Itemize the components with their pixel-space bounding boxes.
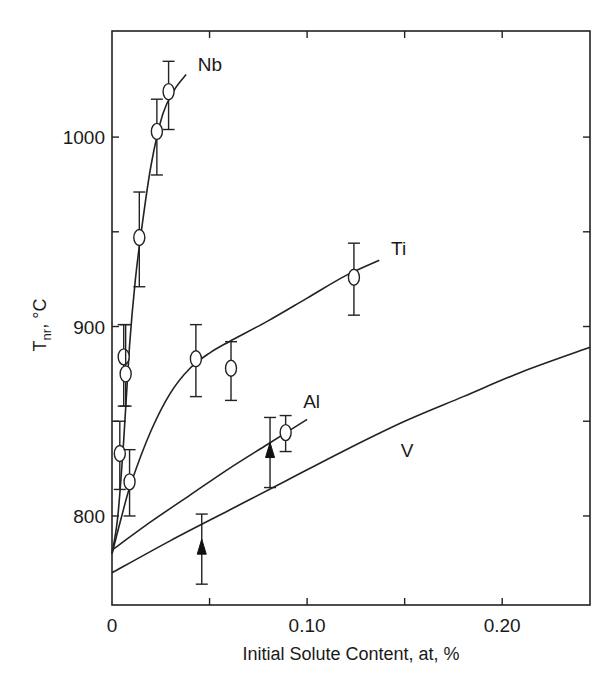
- y-tick-label: 800: [73, 506, 105, 527]
- circle-marker-icon: [151, 123, 162, 139]
- chart: 00.100.20 8009001000 NbTiAlV Initial Sol…: [0, 0, 615, 682]
- x-tick-label: 0: [107, 615, 118, 636]
- series-label-v: V: [401, 440, 414, 461]
- y-axis-title: Tnr, °C: [30, 299, 54, 352]
- y-axis-title-main: T: [30, 340, 50, 351]
- plot-border: [112, 31, 590, 605]
- curve-nb: [112, 75, 186, 554]
- data-point-nb: [133, 192, 145, 287]
- circle-marker-icon: [280, 425, 291, 441]
- series-curves: [112, 75, 590, 573]
- data-point-ti: [124, 450, 136, 516]
- circle-marker-icon: [163, 84, 174, 100]
- data-point-v: [264, 417, 276, 487]
- circle-marker-icon: [120, 366, 131, 382]
- circle-marker-icon: [134, 229, 145, 245]
- circle-marker-icon: [118, 349, 129, 365]
- data-point-al: [280, 416, 292, 452]
- circle-marker-icon: [190, 351, 201, 367]
- series-label-nb: Nb: [198, 54, 222, 75]
- y-axis-title-unit: , °C: [30, 299, 50, 329]
- data-point-nb: [163, 61, 175, 129]
- series-label-ti: Ti: [391, 238, 406, 259]
- plot-frame: [112, 31, 590, 605]
- curve-ti: [112, 260, 379, 554]
- x-tick-label: 0.10: [289, 615, 326, 636]
- y-tick-label: 900: [73, 317, 105, 338]
- y-axis-ticks: 8009001000: [63, 127, 590, 527]
- x-axis-title: Initial Solute Content, at, %: [242, 644, 459, 664]
- data-point-ti: [348, 243, 360, 315]
- y-tick-label: 1000: [63, 127, 105, 148]
- y-axis-title-subscript: nr: [39, 328, 54, 340]
- circle-marker-icon: [114, 445, 125, 461]
- circle-marker-icon: [348, 269, 359, 285]
- x-tick-label: 0.20: [484, 615, 521, 636]
- series-label-al: Al: [303, 391, 320, 412]
- data-point-nb: [151, 99, 163, 175]
- curve-v: [112, 347, 590, 572]
- data-point-ti: [225, 342, 237, 401]
- circle-marker-icon: [124, 474, 135, 490]
- triangle-marker-icon: [197, 539, 206, 554]
- circle-marker-icon: [226, 360, 237, 376]
- data-point-v: [196, 514, 208, 584]
- data-point-ti: [190, 325, 202, 397]
